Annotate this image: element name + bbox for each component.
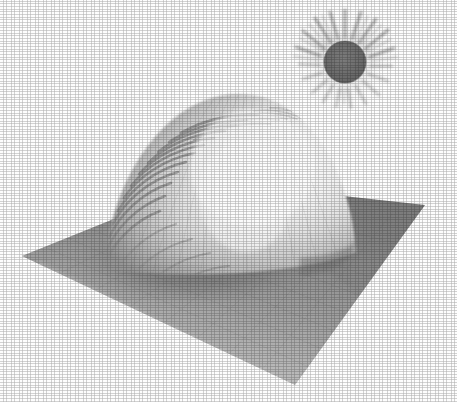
paper-grain-layer <box>0 0 457 402</box>
figure-root: Gaussian bump surface lit by a point lig… <box>0 0 457 402</box>
scene-svg <box>0 0 457 402</box>
